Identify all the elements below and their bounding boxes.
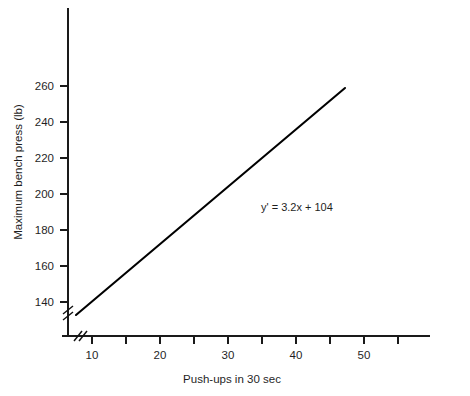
x-tick-label-40: 40: [290, 349, 303, 361]
x-tick-label-30: 30: [222, 349, 235, 361]
x-axis-ticks: [92, 336, 398, 344]
y-axis-title: Maximum bench press (lb): [12, 104, 24, 240]
y-tick-label-220: 220: [35, 152, 54, 164]
y-tick-label-200: 200: [35, 188, 54, 200]
y-tick-label-160: 160: [35, 260, 54, 272]
y-axis-tick-labels: 260 240 220 200 180 160 140: [35, 80, 54, 308]
x-tick-label-10: 10: [86, 349, 99, 361]
y-tick-label-140: 140: [35, 296, 54, 308]
x-axis-title: Push-ups in 30 sec: [183, 373, 281, 385]
chart-figure: 260 240 220 200 180 160 140 10 20 30 4: [0, 0, 470, 396]
x-axis-tick-labels: 10 20 30 40 50: [86, 349, 371, 361]
scatterplot-regression-chart: 260 240 220 200 180 160 140 10 20 30 4: [0, 0, 470, 396]
y-tick-label-260: 260: [35, 80, 54, 92]
y-axis-ticks: [60, 86, 68, 302]
y-tick-label-240: 240: [35, 116, 54, 128]
x-tick-label-50: 50: [358, 349, 371, 361]
x-tick-label-20: 20: [154, 349, 167, 361]
regression-equation-label: y' = 3.2x + 104: [261, 201, 333, 213]
y-tick-label-180: 180: [35, 224, 54, 236]
